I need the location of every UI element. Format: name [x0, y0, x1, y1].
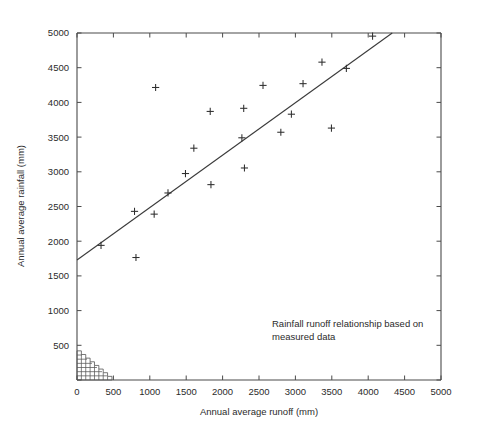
y-axis-tick-labels: 500100015002000250030003500400045005000: [48, 27, 69, 350]
scatter-marker-plus: [288, 111, 295, 118]
x-tick-label: 3000: [285, 386, 306, 397]
data-point-markers: [97, 33, 376, 262]
y-tick-label: 5000: [48, 27, 69, 38]
scatter-marker-plus: [277, 129, 284, 136]
scatter-marker-plus: [97, 242, 104, 249]
scatter-marker-plus: [369, 33, 376, 40]
x-tick-label: 500: [105, 386, 121, 397]
scatter-marker-plus: [299, 80, 306, 87]
scatter-marker-plus: [240, 105, 247, 112]
x-tick-label: 2000: [212, 386, 233, 397]
annotation-line-1: Rainfall runoff relationship based on: [272, 318, 423, 329]
x-tick-label: 4000: [358, 386, 379, 397]
scatter-marker-plus: [318, 59, 325, 66]
y-tick-label: 3500: [48, 132, 69, 143]
x-tick-label: 1000: [139, 386, 160, 397]
y-tick-label: 2000: [48, 236, 69, 247]
scatter-marker-plus: [151, 211, 158, 218]
x-tick-label: 2500: [248, 386, 269, 397]
low-runoff-hatched-wedge: [77, 351, 112, 380]
scatter-marker-plus: [207, 108, 214, 115]
y-tick-label: 2500: [48, 201, 69, 212]
scatter-marker-plus: [190, 145, 197, 152]
x-tick-label: 1500: [176, 386, 197, 397]
trend-line-path: [77, 33, 392, 260]
y-tick-label: 4000: [48, 97, 69, 108]
scatter-marker-plus: [238, 134, 245, 141]
annotation-line-2: measured data: [272, 331, 336, 342]
x-tick-label: 5000: [430, 386, 451, 397]
x-tick-label: 3500: [321, 386, 342, 397]
scatter-plot: 0500100015002000250030003500400045005000…: [0, 0, 478, 443]
scatter-marker-plus: [343, 65, 350, 72]
y-axis-title: Annual average rainfall (mm): [15, 145, 26, 267]
scatter-marker-plus: [132, 254, 139, 261]
scatter-marker-plus: [241, 164, 248, 171]
x-tick-label: 4500: [394, 386, 415, 397]
scatter-marker-plus: [259, 82, 266, 89]
scatter-marker-plus: [131, 208, 138, 215]
chart-figure: 0500100015002000250030003500400045005000…: [0, 0, 478, 443]
scatter-marker-plus: [207, 181, 214, 188]
x-tick-label: 0: [74, 386, 79, 397]
scatter-marker-plus: [152, 84, 159, 91]
y-tick-label: 1000: [48, 305, 69, 316]
y-tick-label: 500: [53, 340, 69, 351]
y-tick-label: 1500: [48, 270, 69, 281]
annotation-text-block: Rainfall runoff relationship based on me…: [272, 318, 423, 342]
y-tick-label: 4500: [48, 62, 69, 73]
scatter-marker-plus: [328, 124, 335, 131]
fitted-trend-line: [77, 33, 392, 260]
scatter-marker-plus: [182, 170, 189, 177]
x-axis-tick-labels: 0500100015002000250030003500400045005000: [74, 386, 451, 397]
scatter-marker-plus: [164, 189, 171, 196]
y-tick-label: 3000: [48, 166, 69, 177]
x-axis-title: Annual average runoff (mm): [200, 406, 318, 417]
